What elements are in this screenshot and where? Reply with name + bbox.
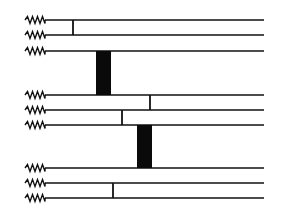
zigzag-icon	[25, 107, 45, 114]
strand-diagram	[0, 0, 290, 216]
strand-3	[25, 48, 264, 55]
strand-9	[25, 195, 264, 202]
zigzag-icon	[25, 180, 45, 187]
bridge-block	[96, 51, 111, 95]
zigzag-icon	[25, 32, 45, 39]
zigzag-icon	[25, 17, 45, 24]
strand-8	[25, 180, 264, 187]
strand-2	[25, 32, 264, 39]
zigzag-icon	[25, 122, 45, 129]
zigzag-icon	[25, 165, 45, 172]
strand-4	[25, 92, 264, 99]
zigzag-icon	[25, 48, 45, 55]
bridge-block	[137, 125, 152, 168]
strand-1	[25, 17, 264, 24]
strand-5	[25, 107, 264, 114]
zigzag-icon	[25, 92, 45, 99]
zigzag-icon	[25, 195, 45, 202]
